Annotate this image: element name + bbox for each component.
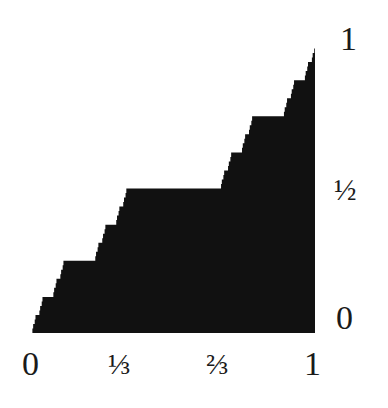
x-tick-1: 1: [304, 347, 321, 381]
y-tick-0: 0: [336, 301, 353, 335]
y-tick-1: 1: [340, 22, 357, 56]
x-tick-two-thirds: ⅔: [206, 349, 229, 379]
x-tick-0: 0: [22, 347, 39, 381]
cantor-function-chart: [0, 0, 388, 408]
staircase-area: [32, 44, 315, 333]
x-tick-one-third: ⅓: [108, 349, 131, 379]
y-tick-one-half: ½: [334, 175, 357, 205]
